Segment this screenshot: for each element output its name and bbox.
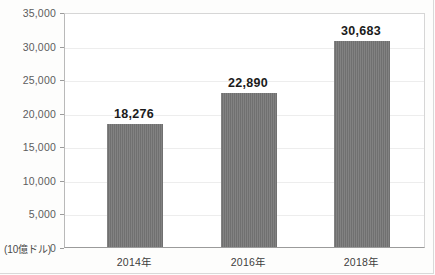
chart-page: 05,00010,00015,00020,00025,00030,00035,0… — [0, 0, 435, 275]
x-axis-category-label: 2016年 — [198, 254, 298, 269]
y-axis-tick-label: 30,000 — [0, 41, 56, 53]
y-axis-tick-label: 15,000 — [0, 141, 56, 153]
bar-value-label: 30,683 — [311, 24, 411, 38]
y-axis-tick-label: 5,000 — [0, 208, 56, 220]
bar — [334, 41, 390, 247]
y-axis-tick-label: 10,000 — [0, 175, 56, 187]
bar — [107, 124, 163, 247]
plot-area — [64, 13, 425, 248]
bar-value-label: 22,890 — [198, 76, 298, 90]
y-axis-tick-label: 20,000 — [0, 108, 56, 120]
y-axis-tick-mark — [60, 248, 64, 249]
bar-value-label: 18,276 — [84, 107, 184, 121]
x-axis-category-label: 2018年 — [311, 254, 411, 269]
y-axis-unit-label: (10億ドル) — [4, 241, 51, 256]
bar — [221, 93, 277, 247]
y-axis-tick-label: 35,000 — [0, 7, 56, 19]
y-axis-tick-label: 25,000 — [0, 74, 56, 86]
x-axis-category-label: 2014年 — [84, 254, 184, 269]
